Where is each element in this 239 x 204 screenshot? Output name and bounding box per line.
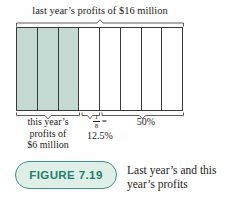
- this-year-label-line2: profits of: [10, 128, 86, 140]
- bar-segment-5: [100, 28, 121, 110]
- figure-7-19: last year’s profits of $16 million this …: [0, 0, 239, 204]
- bar-segment-8: [162, 28, 182, 110]
- this-year-label-line1: this year’s: [10, 116, 86, 128]
- this-year-label-line3: $6 million: [10, 139, 86, 151]
- fraction-denominator: 8: [95, 122, 99, 130]
- bar-segment-2: [38, 28, 59, 110]
- bar-segment-1: [17, 28, 38, 110]
- fifty-percent-label: 50%: [128, 116, 164, 127]
- top-brace: [16, 19, 184, 27]
- one-eighth-fraction: 1 8: [93, 114, 100, 130]
- bar-segment-3: [59, 28, 80, 110]
- equals-sign: =: [102, 116, 107, 127]
- bar-segment-4: [79, 28, 100, 110]
- figure-number-pill: FIGURE 7.19: [15, 161, 117, 189]
- bar-segment-7: [142, 28, 163, 110]
- last-year-label: last year’s profits of $16 million: [10, 5, 190, 17]
- fraction-numerator: 1: [93, 114, 100, 123]
- one-eighth-percent: 12.5%: [82, 130, 118, 141]
- profit-bar: [16, 27, 183, 111]
- bar-segment-6: [121, 28, 142, 110]
- one-eighth-label: 1 8 = 12.5%: [82, 114, 118, 141]
- this-year-label: this year’s profits of $6 million: [10, 116, 86, 151]
- figure-caption: Last year’s and this year’s profits: [127, 163, 233, 191]
